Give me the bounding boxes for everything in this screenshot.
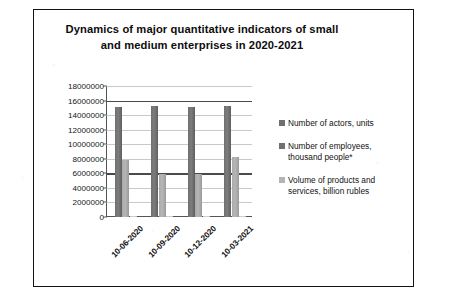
bar-10-03-2021-series-1 (232, 157, 239, 217)
x-axis-label-10-09-2020: 10-09-2020 (146, 224, 181, 259)
y-tickmark-10000000 (103, 144, 107, 145)
y-tickmark-0 (103, 217, 107, 218)
x-axis-label-10-12-2020: 10-12-2020 (183, 224, 218, 259)
y-axis-tick-2000000: 2000000 (32, 198, 104, 207)
x-axis-label-10-06-2020: 10-06-2020 (110, 224, 145, 259)
chart-legend: Number of actors, unitsNumber of employe… (279, 118, 411, 209)
y-tickmark-18000000 (103, 86, 107, 87)
bar-10-12-2020-series-1 (195, 174, 202, 217)
legend-swatch-icon-0 (279, 120, 285, 126)
legend-label-2-line-1: services, billion rubles (288, 186, 375, 197)
bar-10-12-2020-series-0 (188, 107, 195, 217)
y-axis-tick-10000000: 10000000 (32, 140, 104, 149)
y-axis-line (106, 86, 107, 217)
y-axis-tick-18000000: 18000000 (32, 82, 104, 91)
legend-label-1-line-0: Number of employees, (288, 141, 371, 152)
bar-10-03-2021-series-2 (239, 216, 246, 217)
legend-label-1: Number of employees,thousand people* (288, 141, 371, 163)
bar-10-06-2020-series-1 (122, 160, 129, 217)
y-tickmark-12000000 (103, 129, 107, 130)
legend-label-2: Volume of products andservices, billion … (288, 175, 375, 197)
y-axis-tick-12000000: 12000000 (32, 125, 104, 134)
bar-10-12-2020-series-2 (203, 216, 210, 217)
bar-10-09-2020-series-2 (166, 216, 173, 217)
legend-item-2[interactable]: Volume of products andservices, billion … (279, 175, 411, 197)
bar-10-06-2020-series-0 (115, 107, 122, 217)
bar-group-10-03-2021 (224, 86, 246, 217)
bar-group-10-06-2020 (115, 86, 137, 217)
bar-10-09-2020-series-1 (159, 174, 166, 217)
legend-swatch-icon-1 (279, 143, 285, 149)
y-axis-tick-4000000: 4000000 (32, 183, 104, 192)
y-tickmark-16000000 (103, 100, 107, 101)
bar-group-10-09-2020 (151, 86, 173, 217)
y-axis-tick-labels: 1800000016000000140000001200000010000000… (8, 10, 104, 288)
bar-10-03-2021-series-0 (224, 106, 231, 217)
bar-group-10-12-2020 (188, 86, 210, 217)
legend-item-1[interactable]: Number of employees,thousand people* (279, 141, 411, 163)
plot-area (106, 86, 252, 217)
y-axis-tick-16000000: 16000000 (32, 96, 104, 105)
y-tickmark-4000000 (103, 187, 107, 188)
legend-label-1-line-1: thousand people* (288, 152, 371, 163)
y-axis-tick-6000000: 6000000 (32, 169, 104, 178)
legend-label-0-line-0: Number of actors, units (288, 118, 374, 129)
x-axis-label-10-03-2021: 10-03-2021 (219, 224, 254, 259)
y-axis-tick-8000000: 8000000 (32, 154, 104, 163)
legend-label-2-line-0: Volume of products and (288, 175, 375, 186)
y-axis-tick-14000000: 14000000 (32, 111, 104, 120)
chart-frame: Dynamics of major quantitative indicator… (33, 9, 414, 287)
y-tickmark-14000000 (103, 115, 107, 116)
y-tickmark-8000000 (103, 158, 107, 159)
x-axis-tick-labels: 10-06-202010-09-202010-12-202010-03-2021 (106, 219, 252, 285)
legend-label-0: Number of actors, units (288, 118, 374, 129)
y-tickmark-2000000 (103, 202, 107, 203)
y-tickmark-6000000 (103, 173, 107, 174)
y-axis-tick-0: 0 (32, 213, 104, 222)
legend-item-0[interactable]: Number of actors, units (279, 118, 411, 129)
bar-10-09-2020-series-0 (151, 106, 158, 217)
legend-swatch-icon-2 (279, 177, 285, 183)
bar-10-06-2020-series-2 (130, 216, 137, 217)
